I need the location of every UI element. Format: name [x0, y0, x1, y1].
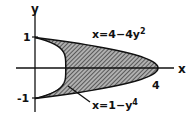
y-tick-label-1: 1 [23, 31, 31, 44]
x-tick-label-4: 4 [152, 79, 160, 92]
region-diagram: y x 1 -1 4 x=4−4y2 x=1−y4 [0, 0, 196, 119]
y-tick-label-neg1: -1 [17, 92, 29, 105]
y-axis-label: y [31, 2, 39, 16]
outer-curve-label: x=4−4y2 [92, 27, 146, 41]
x-axis-label: x [178, 62, 186, 76]
inner-curve-label: x=1−y4 [92, 98, 138, 112]
